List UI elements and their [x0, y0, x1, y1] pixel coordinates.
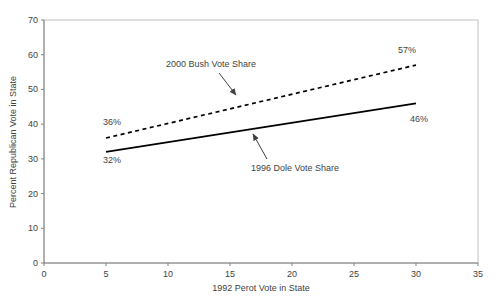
- y-axis-title: Percent Republican Vote in State: [8, 76, 18, 208]
- x-tick-label: 30: [411, 269, 421, 279]
- annotation-arrow-dole: [253, 134, 267, 159]
- x-tick-label: 10: [163, 269, 173, 279]
- annotation-arrow-bush: [219, 73, 236, 95]
- x-tick-label: 20: [287, 269, 297, 279]
- data-label-dole: 46%: [410, 114, 428, 124]
- data-label-bush: 36%: [103, 117, 121, 127]
- y-tick-label: 30: [28, 154, 38, 164]
- annotation-dole-label: 1996 Dole Vote Share: [251, 163, 339, 173]
- plot-area-border: [44, 20, 478, 263]
- x-tick-label: 35: [473, 269, 483, 279]
- y-tick-label: 60: [28, 50, 38, 60]
- y-tick-label: 70: [28, 15, 38, 25]
- y-tick-label: 20: [28, 189, 38, 199]
- x-tick-label: 25: [349, 269, 359, 279]
- y-tick-label: 50: [28, 84, 38, 94]
- x-tick-label: 15: [225, 269, 235, 279]
- y-tick-label: 40: [28, 119, 38, 129]
- y-tick-label: 10: [28, 223, 38, 233]
- data-label-bush: 57%: [398, 45, 416, 55]
- y-tick-label: 0: [33, 258, 38, 268]
- x-tick-label: 5: [103, 269, 108, 279]
- annotation-bush-label: 2000 Bush Vote Share: [166, 59, 256, 69]
- chart-plot: 0510152025303501020304050607036%57%32%46…: [0, 0, 498, 308]
- x-axis-title: 1992 Perot Vote in State: [212, 283, 310, 293]
- data-label-dole: 32%: [103, 155, 121, 165]
- x-tick-label: 0: [41, 269, 46, 279]
- perot-vote-chart: 0510152025303501020304050607036%57%32%46…: [0, 0, 498, 308]
